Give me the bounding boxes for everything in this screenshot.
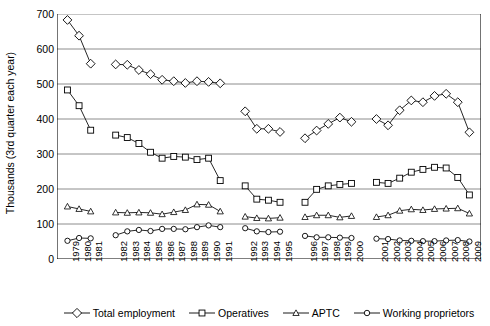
chart-figure: Thousands (3rd quarter each year) 010020…: [0, 0, 490, 326]
data-point: [408, 206, 414, 212]
data-point: [182, 154, 188, 160]
data-point: [432, 164, 438, 170]
data-point: [277, 199, 283, 205]
data-point: [443, 165, 449, 171]
data-point: [65, 87, 71, 93]
data-point: [252, 124, 261, 133]
data-point: [218, 225, 223, 230]
series-aptc: [64, 201, 472, 221]
data-point: [242, 214, 248, 220]
data-point: [63, 16, 72, 25]
data-point: [148, 149, 154, 155]
x-axis-tick: 1987: [177, 241, 187, 262]
data-point: [385, 180, 391, 186]
data-point: [75, 31, 84, 40]
chart-legend: Total employmentOperativesAPTCWorking pr…: [57, 303, 481, 323]
data-point: [312, 126, 321, 135]
x-axis-tick: 1988: [189, 241, 199, 262]
data-point: [183, 227, 188, 232]
legend-item-total-employment[interactable]: Total employment: [64, 307, 175, 319]
data-point: [302, 233, 307, 238]
x-axis-tick: 1991: [224, 241, 234, 262]
y-axis-tick: 300: [36, 149, 54, 160]
x-axis-tick: 2000: [355, 241, 365, 262]
data-point: [181, 79, 190, 88]
data-point: [171, 153, 177, 159]
x-axis-tick: 1994: [272, 241, 282, 262]
x-axis-tick-labels: 1979198019811982198319841985198619871988…: [57, 262, 481, 304]
data-point: [113, 233, 118, 238]
x-axis-tick: 1986: [166, 241, 176, 262]
data-point: [419, 98, 428, 107]
data-point: [374, 179, 380, 185]
data-point: [337, 235, 342, 240]
data-point: [266, 229, 271, 234]
x-axis-tick: 1996: [309, 241, 319, 262]
y-axis-tick: 0: [48, 254, 54, 265]
data-point: [243, 226, 248, 231]
data-point: [337, 181, 343, 187]
data-point: [277, 215, 283, 221]
data-point: [465, 128, 474, 137]
data-point: [76, 235, 81, 240]
data-point: [194, 225, 199, 230]
y-axis-tick: 400: [36, 114, 54, 125]
data-point: [265, 197, 271, 203]
x-axis-tick: 1993: [260, 241, 270, 262]
data-point: [113, 132, 119, 138]
data-point: [148, 228, 153, 233]
legend-item-operatives[interactable]: Operatives: [189, 307, 269, 319]
x-axis-tick: 1981: [94, 241, 104, 262]
x-axis-tick: 2005: [426, 241, 436, 262]
data-point: [430, 92, 439, 101]
data-point: [302, 199, 308, 205]
data-point: [385, 212, 391, 218]
data-point: [264, 124, 273, 133]
y-axis-tick: 600: [36, 44, 54, 55]
y-axis-tick-labels: 0100200300400500600700: [18, 0, 54, 265]
data-point: [442, 89, 451, 98]
data-point: [242, 183, 248, 189]
x-axis-tick: 2003: [403, 241, 413, 262]
x-axis-tick: 1997: [320, 241, 330, 262]
data-point: [171, 226, 176, 231]
data-point: [453, 98, 462, 107]
x-axis-tick: 1980: [83, 241, 93, 262]
data-point: [88, 127, 94, 133]
data-point: [136, 141, 142, 147]
data-point: [216, 79, 225, 88]
data-point: [325, 183, 331, 189]
x-axis-tick: 1979: [71, 241, 81, 262]
data-point: [301, 134, 310, 143]
data-point: [349, 180, 355, 186]
x-axis-tick: 1999: [343, 241, 353, 262]
data-point: [466, 192, 472, 198]
data-point: [206, 155, 212, 161]
data-point: [125, 229, 130, 234]
y-axis-tick: 200: [36, 184, 54, 195]
data-point: [111, 60, 120, 69]
x-axis-tick: 2001: [380, 241, 390, 262]
data-point: [182, 207, 188, 213]
data-point: [349, 235, 354, 240]
x-axis-tick: 2004: [415, 241, 425, 262]
data-point: [86, 59, 95, 68]
data-point: [146, 70, 155, 79]
data-point: [76, 103, 82, 109]
y-axis-title-container: Thousands (3rd quarter each year): [0, 0, 20, 265]
x-axis-tick: 1982: [119, 241, 129, 262]
data-point: [241, 107, 250, 116]
y-axis-tick: 700: [36, 9, 54, 20]
legend-item-aptc[interactable]: APTC: [283, 307, 340, 319]
data-point: [123, 60, 132, 69]
data-point: [64, 203, 70, 209]
data-point: [276, 128, 285, 137]
data-point: [136, 227, 141, 232]
triangle-legend-icon: [283, 307, 309, 319]
circle-legend-icon: [354, 307, 380, 319]
x-axis-tick: 2008: [461, 241, 471, 262]
legend-item-working-proprietors[interactable]: Working proprietors: [354, 307, 474, 319]
data-point: [204, 78, 213, 87]
data-point: [420, 166, 426, 172]
x-axis-tick: 1995: [284, 241, 294, 262]
